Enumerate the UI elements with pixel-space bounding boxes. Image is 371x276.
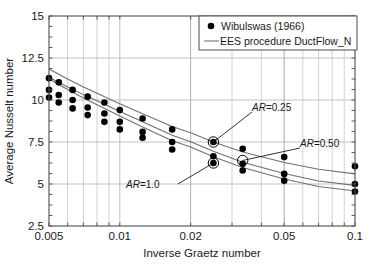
data-point bbox=[69, 97, 76, 104]
x-axis-title: Inverse Graetz number bbox=[143, 247, 261, 259]
x-tick-label: 0.1 bbox=[347, 230, 363, 242]
y-tick-label: 15 bbox=[31, 10, 44, 22]
annotation-value: =0.50 bbox=[314, 138, 340, 149]
data-point bbox=[101, 119, 108, 126]
annotation-ar-100: AR=1.0 bbox=[125, 179, 160, 190]
y-tick-label: 12.5 bbox=[22, 52, 44, 64]
x-tick-label: 0.01 bbox=[109, 230, 131, 242]
annotation-prefix: AR bbox=[299, 138, 314, 149]
y-axis-title: Average Nusselt number bbox=[3, 58, 15, 185]
data-point bbox=[55, 92, 62, 99]
y-tick-label: 5 bbox=[38, 178, 44, 190]
leader-line-ar-100 bbox=[178, 163, 213, 184]
data-point bbox=[169, 126, 176, 133]
data-point bbox=[69, 87, 76, 94]
data-point bbox=[169, 139, 176, 146]
data-point bbox=[101, 99, 108, 106]
x-tick-label: 0.02 bbox=[179, 230, 201, 242]
data-point bbox=[169, 146, 176, 153]
data-point bbox=[239, 167, 246, 174]
data-point bbox=[117, 107, 124, 114]
annotation-value: =0.25 bbox=[266, 102, 292, 113]
model-curve-ar-0.25 bbox=[49, 69, 355, 174]
annotation-ar-050: AR=0.50 bbox=[299, 138, 340, 149]
data-point bbox=[69, 105, 76, 112]
data-point bbox=[139, 115, 146, 122]
data-point bbox=[55, 79, 62, 86]
data-point bbox=[117, 126, 124, 133]
data-point bbox=[55, 99, 62, 106]
model-curve-ar-1.0 bbox=[49, 79, 355, 191]
y-tick-label: 10 bbox=[31, 94, 44, 106]
y-tick-label: 2.5 bbox=[28, 220, 44, 232]
data-point bbox=[117, 119, 124, 126]
data-point bbox=[210, 160, 217, 167]
y-tick-label: 7.5 bbox=[28, 136, 44, 148]
data-point bbox=[101, 110, 108, 117]
legend-label-line: EES procedure DuctFlow_N bbox=[220, 35, 351, 47]
annotation-prefix: AR bbox=[251, 102, 266, 113]
annotation-prefix: AR bbox=[125, 179, 140, 190]
legend-marker-scatter bbox=[208, 23, 215, 30]
legend-label-scatter: Wibulswas (1966) bbox=[221, 20, 304, 32]
data-point bbox=[281, 154, 288, 161]
annotation-value: =1.0 bbox=[140, 179, 160, 190]
data-point bbox=[84, 104, 91, 111]
model-curve-ar-0.50 bbox=[49, 77, 355, 185]
data-point bbox=[84, 93, 91, 100]
data-point bbox=[139, 129, 146, 136]
leader-line-ar-025 bbox=[213, 112, 252, 142]
data-point bbox=[281, 177, 288, 184]
figure-container: 0.0050.010.020.050.12.557.51012.515Inver… bbox=[0, 0, 371, 276]
data-point bbox=[139, 135, 146, 142]
data-point bbox=[239, 145, 246, 152]
data-point bbox=[281, 171, 288, 178]
data-point bbox=[84, 112, 91, 119]
annotation-ar-025: AR=0.25 bbox=[251, 102, 292, 113]
x-tick-label: 0.05 bbox=[273, 230, 295, 242]
chart-canvas: 0.0050.010.020.050.12.557.51012.515Inver… bbox=[0, 0, 371, 276]
